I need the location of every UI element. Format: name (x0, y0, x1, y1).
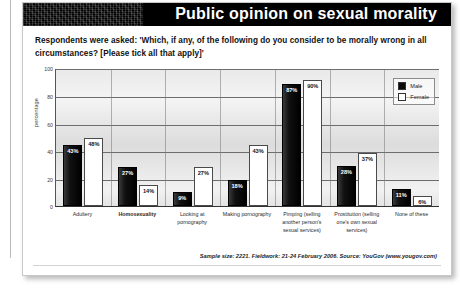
bar-group: 43%48% (56, 69, 111, 206)
bar-female[interactable]: 48% (84, 138, 103, 206)
x-axis-label: Making pornography (220, 211, 275, 234)
x-axis-label: Pimping (selling another person's sexual… (274, 211, 329, 234)
title-bar-texture (23, 3, 143, 26)
question-text: Respondents were asked: 'Which, if any, … (35, 35, 437, 60)
y-axis-tick: 20 (47, 177, 53, 183)
y-axis-tick: 80 (47, 94, 53, 100)
bar-male[interactable]: 28% (337, 166, 356, 207)
bar-male[interactable]: 27% (118, 167, 137, 206)
bar-male[interactable]: 87% (282, 84, 301, 206)
bar-value-label: 90% (307, 83, 318, 89)
x-axis-labels: AdulteryHomosexualityLooking at pornogra… (55, 211, 439, 234)
bar-value-label: 27% (198, 170, 209, 176)
bar-group: 18%43% (220, 69, 275, 206)
y-axis-tick: 100 (44, 66, 53, 72)
y-axis-tick: 0 (50, 204, 53, 210)
bar-groups: 43%48%27%14%9%27%18%43%87%90%28%37%11%6% (56, 69, 439, 206)
bar-male[interactable]: 43% (63, 145, 82, 206)
footer-divider (33, 265, 441, 266)
x-axis-label: Prostitution (selling one's own sexual s… (329, 211, 384, 234)
bar-group: 27%14% (111, 69, 166, 206)
bar-value-label: 43% (252, 148, 263, 154)
bar-group: 28%37% (330, 69, 385, 206)
bar-chart: percentage 020406080100 43%48%27%14%9%27… (33, 69, 441, 241)
y-axis-tick: 60 (47, 122, 53, 128)
y-axis-label: percentage (33, 98, 39, 127)
bar-group: 9%27% (165, 69, 220, 206)
bar-male[interactable]: 18% (228, 180, 247, 207)
male-swatch-icon (398, 82, 406, 90)
title-bar: Public opinion on sexual morality (23, 3, 451, 26)
legend-item-female[interactable]: Female (398, 93, 429, 101)
chart-card: Public opinion on sexual morality Respon… (22, 2, 452, 276)
x-axis-label: None of these (384, 211, 439, 234)
bar-value-label: 11% (396, 192, 407, 198)
bar-value-label: 27% (122, 170, 133, 176)
legend-label-female: Female (410, 94, 429, 100)
bar-female[interactable]: 37% (358, 153, 377, 206)
page-edge-rule (10, 0, 11, 258)
x-axis-label: Adultery (55, 211, 110, 234)
female-swatch-icon (398, 93, 406, 101)
bar-value-label: 48% (88, 141, 99, 147)
legend-item-male[interactable]: Male (398, 82, 429, 90)
bar-value-label: 37% (362, 156, 373, 162)
bar-female[interactable]: 27% (194, 167, 213, 206)
bar-female[interactable]: 14% (139, 185, 158, 206)
bar-value-label: 43% (67, 148, 78, 154)
bar-male[interactable]: 9% (173, 192, 192, 206)
chart-legend: Male Female (393, 78, 435, 105)
bar-female[interactable]: 90% (303, 80, 322, 206)
page-title: Public opinion on sexual morality (175, 5, 437, 23)
bar-value-label: 87% (286, 87, 297, 93)
bar-male[interactable]: 11% (392, 189, 411, 206)
legend-label-male: Male (410, 83, 422, 89)
source-note: Sample size: 2221. Fieldwork: 21-24 Febr… (200, 253, 437, 259)
bar-value-label: 14% (143, 188, 154, 194)
y-axis-tick: 40 (47, 149, 53, 155)
bar-female[interactable]: 6% (413, 196, 432, 206)
bar-group: 87%90% (275, 69, 330, 206)
bar-value-label: 6% (418, 199, 426, 205)
x-axis-label: Looking at pornography (165, 211, 220, 234)
bar-value-label: 18% (231, 183, 242, 189)
plot-area: 020406080100 43%48%27%14%9%27%18%43%87%9… (55, 69, 439, 207)
x-axis-label: Homosexuality (110, 211, 165, 234)
bar-value-label: 28% (341, 169, 352, 175)
bar-value-label: 9% (178, 195, 186, 201)
bar-female[interactable]: 43% (249, 145, 268, 206)
